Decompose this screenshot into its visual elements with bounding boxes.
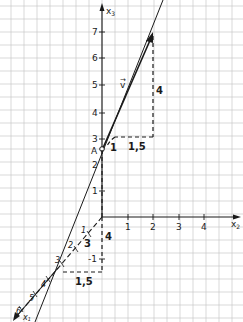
svg-text:1: 1 xyxy=(92,186,98,196)
svg-text:5: 5 xyxy=(92,80,98,90)
upper-triangle xyxy=(106,36,153,147)
lower-diagonal-label: 3 xyxy=(84,238,91,249)
upper-vertical-label: 4 xyxy=(156,85,163,96)
svg-text:4: 4 xyxy=(41,280,46,289)
grid xyxy=(0,0,243,322)
upper-step-label: 1 xyxy=(110,142,117,153)
svg-text:4: 4 xyxy=(201,222,207,232)
x2-axis xyxy=(102,214,241,220)
svg-text:4: 4 xyxy=(92,108,98,118)
x1-axis-label: x1 xyxy=(22,313,31,322)
svg-text:1: 1 xyxy=(81,226,86,235)
coordinate-diagram: 1 2 3 4 5 6 7 x3 1 2 3 4 x2 1 xyxy=(0,0,243,322)
x1-tick-labels: 1 2 3 4 5 6 xyxy=(16,226,86,316)
upper-horizontal-label: 1,5 xyxy=(128,141,146,152)
x3-axis-label: x3 xyxy=(106,6,115,17)
svg-text:3: 3 xyxy=(92,134,98,144)
svg-text:3: 3 xyxy=(176,222,182,232)
vector-arrow-mark: → xyxy=(120,76,126,84)
x2-axis-label: x2 xyxy=(231,219,240,230)
svg-text:7: 7 xyxy=(92,27,98,37)
lower-vertical-label: 4 xyxy=(105,231,112,242)
svg-text:-1: -1 xyxy=(88,254,97,264)
svg-text:2: 2 xyxy=(150,222,156,232)
lower-horizontal-label: 1,5 xyxy=(75,276,93,287)
svg-text:5: 5 xyxy=(29,294,34,303)
x3-arrow-icon xyxy=(100,3,105,11)
point-a-label: A xyxy=(91,146,98,156)
svg-text:1: 1 xyxy=(125,222,131,232)
svg-text:6: 6 xyxy=(92,53,98,63)
svg-text:2: 2 xyxy=(68,241,73,250)
svg-text:6: 6 xyxy=(16,307,21,316)
line-g xyxy=(35,0,163,322)
